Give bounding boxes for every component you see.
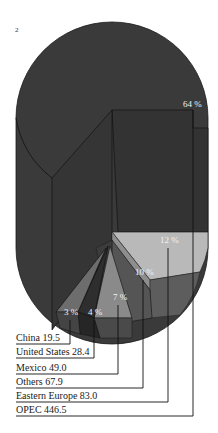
slice-opec-face (112, 110, 208, 232)
pie-chart: 64 % 12 % 10 % 7 % 4 % 3 % China 19.5 Un… (0, 0, 218, 433)
legend-china: China 19.5 (16, 332, 60, 343)
pct-united-states: 4 % (88, 307, 103, 317)
legend-mexico: Mexico 49.0 (16, 362, 67, 373)
pct-mexico: 7 % (113, 292, 128, 302)
legend-united-states: United States 28.4 (16, 346, 90, 357)
legend-others: Others 67.9 (16, 376, 63, 387)
legend-eastern-europe: Eastern Europe 83.0 (16, 390, 97, 401)
legend-opec: OPEC 446.5 (16, 404, 67, 415)
pct-opec: 64 % (183, 99, 202, 109)
pct-others: 10 % (135, 267, 154, 277)
pct-eastern-europe: 12 % (160, 235, 179, 245)
pct-china: 3 % (64, 307, 79, 317)
